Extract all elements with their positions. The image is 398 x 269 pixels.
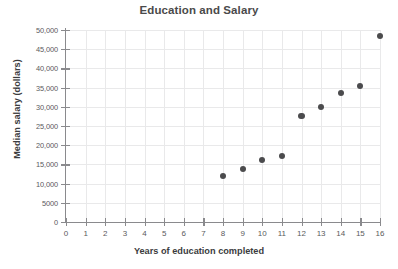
y-axis-tick-label: 0 — [10, 218, 58, 227]
y-axis-tick — [61, 88, 70, 89]
gridline-vertical — [282, 30, 283, 222]
x-axis-tick — [243, 218, 244, 226]
y-axis-title: Median salary (dollars) — [12, 24, 22, 194]
x-axis-tick-label: 10 — [252, 229, 272, 238]
data-point — [298, 113, 304, 119]
x-axis-tick-label: 11 — [272, 229, 292, 238]
x-axis-tick — [341, 218, 342, 226]
x-axis-tick-label: 2 — [95, 229, 115, 238]
x-axis-tick — [302, 218, 303, 226]
x-axis-tick-label: 7 — [193, 229, 213, 238]
chart-figure: Education and Salary 0500010,00015,00020… — [0, 0, 398, 269]
x-axis-tick — [145, 218, 146, 226]
gridline-vertical — [360, 30, 361, 222]
x-axis-tick — [203, 218, 204, 226]
x-axis-tick-label: 4 — [135, 229, 155, 238]
x-axis-tick-label: 3 — [115, 229, 135, 238]
data-point — [318, 104, 324, 110]
gridline-vertical — [223, 30, 224, 222]
plot-area — [66, 30, 380, 222]
x-axis-tick — [262, 218, 263, 226]
gridline-vertical — [302, 30, 303, 222]
chart-title: Education and Salary — [0, 4, 398, 16]
y-axis-tick — [61, 68, 70, 69]
gridline-vertical — [341, 30, 342, 222]
gridline-vertical — [164, 30, 165, 222]
data-point — [220, 173, 226, 179]
x-axis-tick — [360, 218, 361, 226]
x-axis-tick — [321, 218, 322, 226]
x-axis-tick — [125, 218, 126, 226]
x-axis-tick-label: 16 — [370, 229, 390, 238]
y-axis-tick — [61, 126, 70, 127]
gridline-vertical — [86, 30, 87, 222]
x-axis-tick-label: 1 — [76, 229, 96, 238]
x-axis-tick-label: 14 — [331, 229, 351, 238]
x-axis-tick-label: 5 — [154, 229, 174, 238]
y-axis-tick — [61, 145, 70, 146]
data-point — [377, 33, 383, 39]
x-axis-tick-label: 9 — [233, 229, 253, 238]
y-axis-tick — [61, 184, 70, 185]
x-axis-tick-label: 12 — [292, 229, 312, 238]
gridline-vertical — [125, 30, 126, 222]
y-axis-tick — [61, 30, 70, 31]
x-axis-tick — [282, 218, 283, 226]
gridline-vertical — [145, 30, 146, 222]
x-axis-tick-label: 8 — [213, 229, 233, 238]
x-axis-title: Years of education completed — [0, 246, 398, 256]
y-axis-tick — [61, 49, 70, 50]
gridline-vertical — [105, 30, 106, 222]
data-point — [338, 90, 344, 96]
gridline-vertical — [243, 30, 244, 222]
x-axis-tick — [86, 218, 87, 226]
x-axis-tick — [380, 218, 381, 226]
x-axis-tick-label: 0 — [56, 229, 76, 238]
y-axis-tick-label: 5000 — [10, 199, 58, 208]
data-point — [240, 166, 246, 172]
gridline-vertical — [184, 30, 185, 222]
x-axis-tick-label: 15 — [350, 229, 370, 238]
x-axis-tick — [184, 218, 185, 226]
y-axis-tick — [61, 107, 70, 108]
gridline-vertical — [203, 30, 204, 222]
data-point — [279, 153, 285, 159]
x-axis-tick-label: 6 — [174, 229, 194, 238]
data-point — [259, 157, 265, 163]
y-axis-tick — [61, 164, 70, 165]
gridline-vertical — [262, 30, 263, 222]
gridline-vertical — [321, 30, 322, 222]
gridline-vertical — [380, 30, 381, 222]
y-axis-tick — [61, 203, 70, 204]
x-axis-tick-label: 13 — [311, 229, 331, 238]
x-axis-tick — [164, 218, 165, 226]
x-axis-tick — [223, 218, 224, 226]
x-axis-tick — [105, 218, 106, 226]
x-axis-tick — [66, 218, 67, 226]
